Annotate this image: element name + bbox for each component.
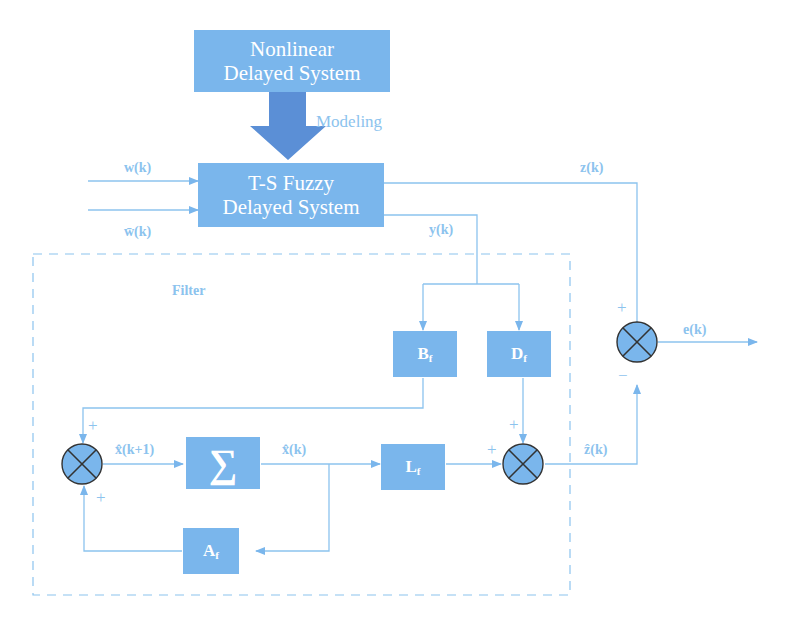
z-hat-label: ẑ(k) [584, 442, 607, 458]
sigma-symbol: ∑ [209, 440, 238, 487]
af-subscript: f [215, 549, 219, 561]
sigma-block: ∑ [186, 437, 260, 489]
z-label: z(k) [580, 160, 603, 176]
nonlinear-line2: Delayed System [223, 61, 360, 85]
ts-fuzzy-line2: Delayed System [222, 195, 359, 219]
sum1-bottom-sign: + [96, 488, 106, 508]
af-block: Af [183, 528, 239, 574]
diagram-lines [0, 0, 790, 630]
bf-label: B [417, 344, 428, 364]
df-block: Df [487, 331, 551, 377]
sum2-left-sign: + [487, 440, 497, 460]
modeling-label: Modeling [316, 112, 382, 132]
sum3-bottom-sign: − [618, 366, 628, 386]
bf-subscript: f [429, 352, 433, 364]
lf-label: L [405, 457, 416, 477]
lf-subscript: f [417, 465, 421, 477]
e-label: e(k) [683, 322, 706, 338]
w-label: w(k) [124, 160, 151, 176]
sum2-top-sign: + [509, 415, 519, 435]
nonlinear-line1: Nonlinear [250, 37, 334, 61]
sum3-top-sign: + [617, 298, 627, 318]
bf-block: Bf [393, 331, 457, 377]
af-label: A [203, 541, 215, 561]
x-hat-label: x̂(k) [282, 442, 306, 458]
x-hat-next-label: x̂(k+1) [115, 442, 154, 458]
ts-fuzzy-line1: T-S Fuzzy [248, 171, 334, 195]
filter-label: Filter [172, 283, 205, 299]
y-label: y(k) [429, 222, 453, 238]
lf-block: Lf [381, 444, 445, 490]
df-subscript: f [523, 352, 527, 364]
df-label: D [511, 344, 523, 364]
nonlinear-system-block: Nonlinear Delayed System [194, 30, 390, 92]
w-bar-label: w̄(k) [124, 224, 151, 240]
modeling-arrow [250, 91, 326, 160]
summing-junctions [62, 322, 657, 484]
sum1-top-sign: + [88, 416, 98, 436]
ts-fuzzy-block: T-S Fuzzy Delayed System [198, 163, 384, 227]
